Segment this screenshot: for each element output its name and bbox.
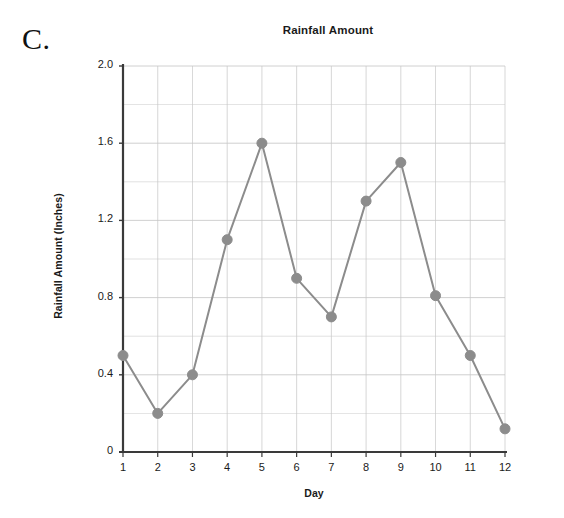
data-point-marker bbox=[292, 273, 302, 283]
data-markers bbox=[118, 138, 510, 434]
data-point-marker bbox=[222, 235, 232, 245]
y-axis-tick-label: 0.4 bbox=[73, 367, 113, 379]
data-point-marker bbox=[257, 138, 267, 148]
y-axis-tick-label: 2.0 bbox=[73, 58, 113, 70]
grid-lines bbox=[123, 66, 505, 452]
figure-panel: C. Rainfall Amount Rainfall Amount (Inch… bbox=[0, 0, 564, 518]
x-axis-tick-label: 9 bbox=[386, 461, 416, 473]
data-point-marker bbox=[500, 424, 510, 434]
data-point-marker bbox=[153, 408, 163, 418]
data-point-marker bbox=[465, 351, 475, 361]
x-axis-tick-label: 11 bbox=[455, 461, 485, 473]
data-line bbox=[123, 143, 505, 429]
data-point-marker bbox=[396, 158, 406, 168]
x-axis-tick-label: 12 bbox=[490, 461, 520, 473]
x-axis-tick-label: 1 bbox=[108, 461, 138, 473]
x-axis-tick-label: 4 bbox=[212, 461, 242, 473]
y-axis-tick-label: 0 bbox=[73, 444, 113, 456]
y-axis-tick-label: 0.8 bbox=[73, 290, 113, 302]
data-point-marker bbox=[431, 291, 441, 301]
x-axis-tick-label: 3 bbox=[177, 461, 207, 473]
x-axis-tick-label: 8 bbox=[351, 461, 381, 473]
data-point-marker bbox=[187, 370, 197, 380]
y-axis-tick-label: 1.6 bbox=[73, 135, 113, 147]
data-point-marker bbox=[361, 196, 371, 206]
data-point-marker bbox=[118, 351, 128, 361]
line-chart-plot bbox=[0, 0, 564, 518]
axes bbox=[119, 64, 507, 457]
x-axis-tick-label: 7 bbox=[316, 461, 346, 473]
x-axis-tick-label: 5 bbox=[247, 461, 277, 473]
data-point-marker bbox=[326, 312, 336, 322]
y-axis-tick-label: 1.2 bbox=[73, 212, 113, 224]
x-axis-tick-label: 6 bbox=[282, 461, 312, 473]
x-axis-tick-label: 2 bbox=[143, 461, 173, 473]
x-axis-tick-label: 10 bbox=[421, 461, 451, 473]
